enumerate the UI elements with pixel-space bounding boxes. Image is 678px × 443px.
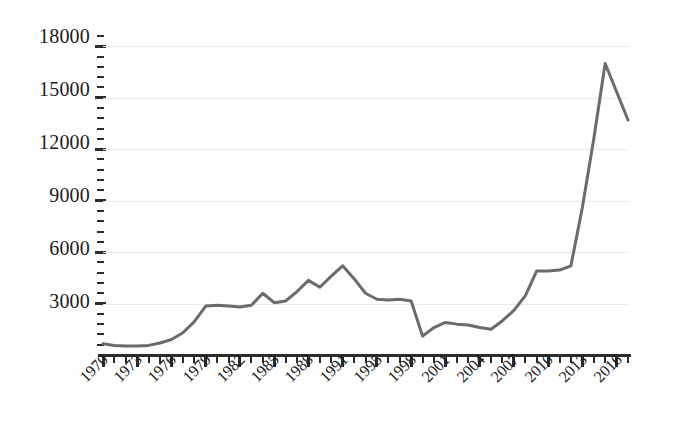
x-axis-minor-tick: [524, 357, 526, 363]
y-axis-tick-label: 6000: [49, 238, 90, 258]
x-axis-minor-tick: [113, 357, 115, 363]
x-axis-minor-tick: [353, 357, 355, 363]
x-axis-minor-tick: [422, 357, 424, 363]
x-axis-minor-tick: [593, 357, 595, 363]
plot-area: [103, 36, 628, 355]
x-axis-minor-tick: [490, 357, 492, 363]
x-axis-minor-tick: [250, 357, 252, 363]
x-axis-minor-tick: [387, 357, 389, 363]
data-series-line: [103, 36, 628, 355]
x-axis-minor-tick: [456, 357, 458, 363]
x-axis-minor-tick: [182, 357, 184, 363]
x-axis-minor-tick: [285, 357, 287, 363]
line-chart: 18000 15000 12000 9000 6000 3000 1970197…: [0, 0, 678, 443]
x-axis-minor-tick: [559, 357, 561, 363]
y-axis-labels: 18000 15000 12000 9000 6000 3000: [0, 0, 90, 443]
y-axis-tick-label: 15000: [39, 79, 90, 99]
x-axis-minor-tick: [148, 357, 150, 363]
x-axis-minor-tick: [627, 357, 629, 363]
y-axis-tick-label: 3000: [49, 291, 90, 311]
y-axis-tick-label: 9000: [49, 185, 90, 205]
y-axis-tick-label: 12000: [39, 132, 90, 152]
x-axis-minor-tick: [319, 357, 321, 363]
y-axis-tick-label: 18000: [39, 26, 90, 46]
x-axis-minor-tick: [216, 357, 218, 363]
